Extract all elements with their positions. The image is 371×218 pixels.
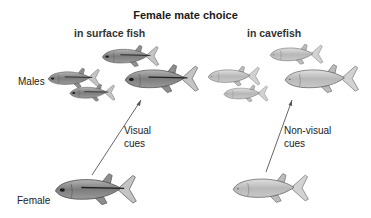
- diagram-artwork: [0, 0, 371, 218]
- males-label: Males: [18, 76, 45, 87]
- non-visual-cues-line-1: Non-visual: [284, 124, 331, 137]
- cavefish-heading: in cavefish: [247, 27, 301, 39]
- non-visual-cues-label: Non-visual cues: [284, 124, 331, 150]
- diagram-title: Female mate choice: [0, 9, 371, 21]
- female-label: Female: [17, 195, 50, 206]
- surface-male-fish-left: [48, 68, 100, 88]
- visual-cues-line-1: Visual: [124, 124, 151, 137]
- visual-cues-line-2: cues: [124, 137, 151, 150]
- surface-female-fish: [55, 174, 136, 205]
- surface-fish-heading: in surface fish: [74, 27, 145, 39]
- surface-male-fish-chosen: [125, 65, 198, 93]
- visual-cues-label: Visual cues: [124, 124, 151, 150]
- cave-male-fish-top: [270, 44, 323, 64]
- surface-male-fish-top: [102, 45, 158, 67]
- cave-female-fish: [233, 174, 308, 203]
- cave-male-fish-chosen: [285, 65, 358, 93]
- non-visual-cues-line-2: cues: [284, 137, 331, 150]
- cave-male-fish-small: [224, 85, 268, 102]
- cave-male-fish-left: [208, 66, 260, 86]
